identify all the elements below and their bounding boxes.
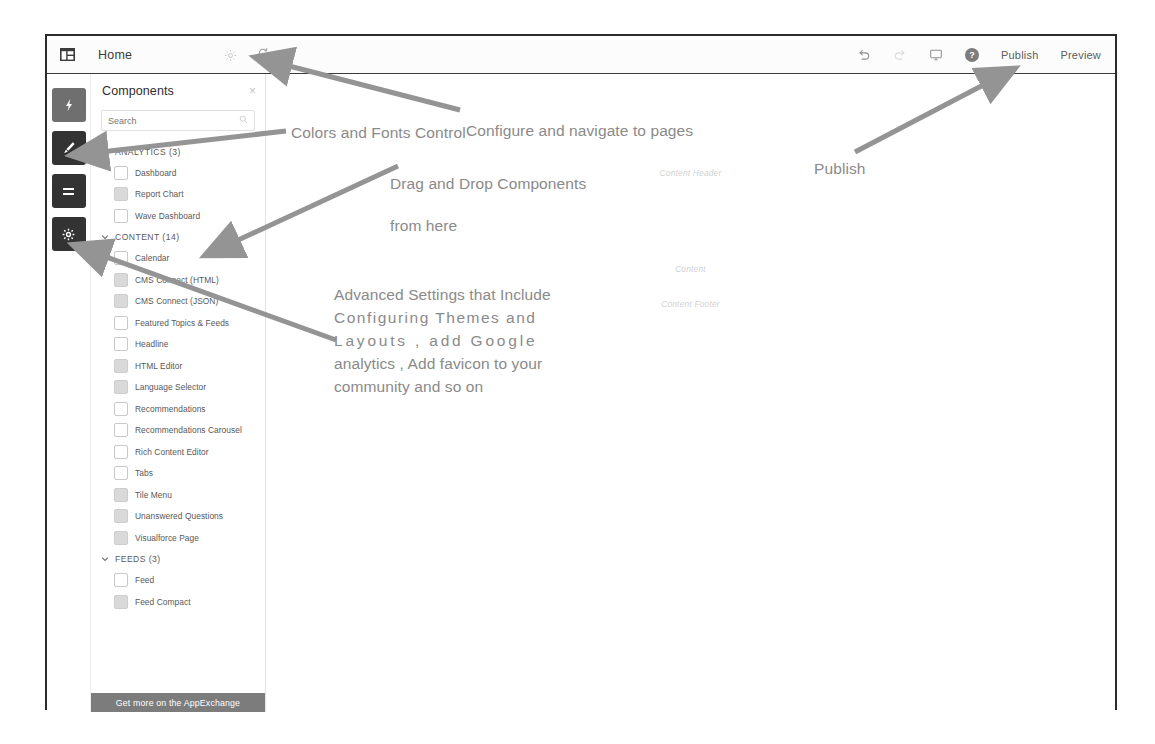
component-list-item-label: Dashboard bbox=[135, 168, 176, 178]
rail-item-page-structure[interactable] bbox=[52, 174, 86, 208]
rail-item-theme[interactable] bbox=[52, 131, 86, 165]
component-list-item[interactable]: Visualforce Page bbox=[91, 527, 265, 549]
components-panel-header: Components × bbox=[91, 74, 265, 108]
components-list[interactable]: ANALYTICS (3)DashboardReport ChartWave D… bbox=[91, 141, 265, 693]
desktop-preview-icon[interactable] bbox=[929, 48, 943, 62]
canvas-content-region[interactable]: Content bbox=[266, 264, 1115, 274]
component-list-item-label: HTML Editor bbox=[135, 361, 182, 371]
component-group-label: FEEDS (3) bbox=[115, 554, 161, 564]
publish-button[interactable]: Publish bbox=[1001, 49, 1038, 61]
component-list-item[interactable]: Language Selector bbox=[91, 377, 265, 399]
calendar-component-icon bbox=[114, 251, 128, 265]
component-list-item[interactable]: HTML Editor bbox=[91, 355, 265, 377]
search-box[interactable] bbox=[101, 110, 255, 131]
component-list-item-label: Language Selector bbox=[135, 382, 206, 392]
chevron-down-icon bbox=[101, 148, 109, 156]
component-list-item-label: Headline bbox=[135, 339, 168, 349]
cms-connect-html-component-icon bbox=[114, 273, 128, 287]
rail-item-components[interactable] bbox=[52, 88, 86, 122]
component-group-label: ANALYTICS (3) bbox=[115, 147, 181, 157]
page-settings-gear-icon[interactable] bbox=[224, 48, 237, 61]
dashboard-component-icon bbox=[114, 166, 128, 180]
component-list-item[interactable]: Tabs bbox=[91, 463, 265, 485]
component-list-item-label: Tile Menu bbox=[135, 490, 172, 500]
component-list-item[interactable]: Recommendations Carousel bbox=[91, 420, 265, 442]
rich-content-editor-component-icon bbox=[114, 445, 128, 459]
canvas-content-footer-region[interactable]: Content Footer bbox=[266, 299, 1115, 309]
unanswered-questions-component-icon bbox=[114, 509, 128, 523]
featured-topics-feeds-component-icon bbox=[114, 316, 128, 330]
appexchange-button[interactable]: Get more on the AppExchange bbox=[91, 693, 265, 712]
component-group-header[interactable]: FEEDS (3) bbox=[91, 549, 265, 570]
lines-icon bbox=[61, 185, 76, 198]
wave-dashboard-component-icon bbox=[114, 209, 128, 223]
component-list-item[interactable]: Rich Content Editor bbox=[91, 441, 265, 463]
feed-compact-component-icon bbox=[114, 595, 128, 609]
component-list-item-label: Report Chart bbox=[135, 189, 184, 199]
component-list-item-label: Featured Topics & Feeds bbox=[135, 318, 229, 328]
chevron-down-icon bbox=[101, 555, 109, 563]
component-list-item[interactable]: CMS Connect (HTML) bbox=[91, 269, 265, 291]
component-group-header[interactable]: CONTENT (14) bbox=[91, 227, 265, 248]
language-selector-component-icon bbox=[114, 380, 128, 394]
component-group-header[interactable]: ANALYTICS (3) bbox=[91, 141, 265, 162]
rail-item-settings[interactable] bbox=[52, 217, 86, 251]
component-list-item[interactable]: Report Chart bbox=[91, 184, 265, 206]
component-list-item[interactable]: Calendar bbox=[91, 248, 265, 270]
recommendations-component-icon bbox=[114, 402, 128, 416]
component-list-item-label: CMS Connect (HTML) bbox=[135, 275, 219, 285]
app-header: Home bbox=[47, 36, 1115, 74]
feed-component-icon bbox=[114, 573, 128, 587]
component-list-item-label: Rich Content Editor bbox=[135, 447, 209, 457]
component-list-item-label: Recommendations bbox=[135, 404, 206, 414]
preview-button[interactable]: Preview bbox=[1060, 49, 1101, 61]
component-list-item-label: Feed bbox=[135, 575, 154, 585]
recommendations-carousel-component-icon bbox=[114, 423, 128, 437]
undo-icon[interactable] bbox=[857, 48, 871, 62]
header-left-group: Home bbox=[47, 46, 269, 63]
html-editor-component-icon bbox=[114, 359, 128, 373]
screenshot-frame: Home bbox=[45, 34, 1117, 710]
tabs-component-icon bbox=[114, 466, 128, 480]
component-list-item[interactable]: Unanswered Questions bbox=[91, 506, 265, 528]
lightning-bolt-icon bbox=[62, 98, 76, 112]
community-builder-logo-icon bbox=[59, 46, 76, 63]
report-chart-component-icon bbox=[114, 187, 128, 201]
tile-menu-component-icon bbox=[114, 488, 128, 502]
visualforce-page-component-icon bbox=[114, 531, 128, 545]
component-list-item[interactable]: Dashboard bbox=[91, 162, 265, 184]
redo-icon[interactable] bbox=[893, 48, 907, 62]
close-icon[interactable]: × bbox=[249, 85, 256, 97]
components-panel-title: Components bbox=[102, 84, 174, 98]
brush-icon bbox=[61, 140, 77, 156]
component-list-item-label: Recommendations Carousel bbox=[135, 425, 242, 435]
help-icon[interactable]: ? bbox=[965, 48, 979, 62]
search-input[interactable] bbox=[108, 116, 239, 126]
component-list-item[interactable]: Featured Topics & Feeds bbox=[91, 312, 265, 334]
component-list-item-label: Visualforce Page bbox=[135, 533, 199, 543]
component-list-item[interactable]: Feed bbox=[91, 570, 265, 592]
left-icon-rail bbox=[47, 74, 91, 712]
component-list-item-label: Calendar bbox=[135, 253, 169, 263]
page-canvas[interactable]: Content Header Content Content Footer bbox=[266, 74, 1115, 712]
cms-connect-json-component-icon bbox=[114, 294, 128, 308]
page-title: Home bbox=[98, 48, 132, 62]
component-list-item-label: Tabs bbox=[135, 468, 153, 478]
refresh-icon[interactable] bbox=[257, 47, 269, 62]
component-list-item-label: Feed Compact bbox=[135, 597, 191, 607]
search-icon bbox=[239, 115, 248, 126]
chevron-down-icon bbox=[101, 233, 109, 241]
component-list-item[interactable]: Recommendations bbox=[91, 398, 265, 420]
canvas-content-header-region[interactable]: Content Header bbox=[266, 168, 1115, 178]
component-list-item[interactable]: Headline bbox=[91, 334, 265, 356]
component-list-item[interactable]: Feed Compact bbox=[91, 591, 265, 613]
component-list-item-label: CMS Connect (JSON) bbox=[135, 296, 218, 306]
component-group-label: CONTENT (14) bbox=[115, 232, 179, 242]
gear-icon bbox=[61, 227, 76, 242]
component-list-item[interactable]: CMS Connect (JSON) bbox=[91, 291, 265, 313]
component-list-item[interactable]: Tile Menu bbox=[91, 484, 265, 506]
header-right-group: ? Publish Preview bbox=[857, 48, 1115, 62]
components-panel: Components × ANALYTICS (3)DashboardRepor… bbox=[91, 74, 266, 712]
component-list-item[interactable]: Wave Dashboard bbox=[91, 205, 265, 227]
component-list-item-label: Wave Dashboard bbox=[135, 211, 200, 221]
